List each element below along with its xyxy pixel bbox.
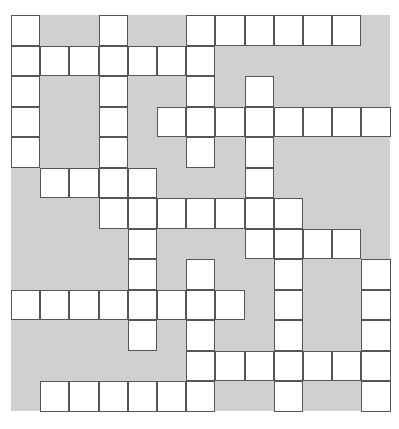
crossword-cell-r9-c12[interactable] bbox=[361, 290, 390, 321]
crossword-cell-r5-c4[interactable] bbox=[128, 168, 157, 199]
crossword-cell-r9-c6[interactable] bbox=[186, 290, 215, 321]
crossword-cell-r8-c4[interactable] bbox=[128, 259, 157, 290]
crossword-cell-r1-c3[interactable] bbox=[99, 46, 128, 77]
crossword-cell-r2-c3[interactable] bbox=[99, 76, 128, 107]
crossword-cell-r9-c1[interactable] bbox=[40, 290, 69, 321]
crossword-cell-r7-c8[interactable] bbox=[245, 229, 274, 260]
crossword-cell-r2-c8[interactable] bbox=[245, 76, 274, 107]
crossword-cell-r6-c6[interactable] bbox=[186, 198, 215, 229]
crossword-cell-r7-c10[interactable] bbox=[303, 229, 332, 260]
crossword-cell-r3-c12[interactable] bbox=[361, 107, 390, 138]
crossword-cell-r0-c0[interactable] bbox=[11, 15, 40, 46]
crossword-cell-r12-c4[interactable] bbox=[128, 381, 157, 412]
crossword-cell-r3-c6[interactable] bbox=[186, 107, 215, 138]
crossword-cell-r12-c12[interactable] bbox=[361, 381, 390, 412]
crossword-cell-r11-c9[interactable] bbox=[274, 351, 303, 382]
crossword-cell-r0-c7[interactable] bbox=[215, 15, 244, 46]
crossword-cell-r6-c5[interactable] bbox=[157, 198, 186, 229]
crossword-cell-r9-c3[interactable] bbox=[99, 290, 128, 321]
crossword-cell-r10-c6[interactable] bbox=[186, 320, 215, 351]
crossword-cell-r3-c3[interactable] bbox=[99, 107, 128, 138]
crossword-cell-r5-c8[interactable] bbox=[245, 168, 274, 199]
crossword-cell-r0-c8[interactable] bbox=[245, 15, 274, 46]
crossword-cell-r9-c2[interactable] bbox=[69, 290, 98, 321]
crossword-cell-r2-c6[interactable] bbox=[186, 76, 215, 107]
crossword-cell-r11-c11[interactable] bbox=[332, 351, 361, 382]
crossword-cell-r8-c12[interactable] bbox=[361, 259, 390, 290]
crossword-cell-r3-c0[interactable] bbox=[11, 107, 40, 138]
crossword-cell-r3-c11[interactable] bbox=[332, 107, 361, 138]
crossword-cell-r8-c9[interactable] bbox=[274, 259, 303, 290]
crossword-cell-r12-c1[interactable] bbox=[40, 381, 69, 412]
crossword-cell-r4-c3[interactable] bbox=[99, 137, 128, 168]
crossword-cell-r2-c0[interactable] bbox=[11, 76, 40, 107]
crossword-cell-r7-c11[interactable] bbox=[332, 229, 361, 260]
crossword-cell-r10-c12[interactable] bbox=[361, 320, 390, 351]
crossword-cell-r8-c6[interactable] bbox=[186, 259, 215, 290]
crossword-cell-r12-c9[interactable] bbox=[274, 381, 303, 412]
crossword-cell-r9-c4[interactable] bbox=[128, 290, 157, 321]
crossword-cell-r11-c6[interactable] bbox=[186, 351, 215, 382]
crossword-cell-r5-c3[interactable] bbox=[99, 168, 128, 199]
crossword-cell-r9-c5[interactable] bbox=[157, 290, 186, 321]
crossword-cell-r6-c4[interactable] bbox=[128, 198, 157, 229]
crossword-cell-r4-c8[interactable] bbox=[245, 137, 274, 168]
crossword-cell-r3-c9[interactable] bbox=[274, 107, 303, 138]
crossword-cell-r0-c6[interactable] bbox=[186, 15, 215, 46]
crossword-cell-r5-c1[interactable] bbox=[40, 168, 69, 199]
crossword-cell-r9-c9[interactable] bbox=[274, 290, 303, 321]
crossword-cell-r1-c0[interactable] bbox=[11, 46, 40, 77]
crossword-cell-r11-c12[interactable] bbox=[361, 351, 390, 382]
crossword-cell-r6-c7[interactable] bbox=[215, 198, 244, 229]
crossword-cell-r4-c6[interactable] bbox=[186, 137, 215, 168]
crossword-cell-r3-c7[interactable] bbox=[215, 107, 244, 138]
crossword-cell-r0-c11[interactable] bbox=[332, 15, 361, 46]
crossword-cell-r10-c9[interactable] bbox=[274, 320, 303, 351]
crossword-cell-r9-c7[interactable] bbox=[215, 290, 244, 321]
crossword-cell-r3-c5[interactable] bbox=[157, 107, 186, 138]
crossword-cell-r11-c8[interactable] bbox=[245, 351, 274, 382]
crossword-cell-r1-c5[interactable] bbox=[157, 46, 186, 77]
crossword-cell-r1-c2[interactable] bbox=[69, 46, 98, 77]
crossword-cell-r3-c8[interactable] bbox=[245, 107, 274, 138]
crossword-cell-r1-c1[interactable] bbox=[40, 46, 69, 77]
crossword-cell-r1-c6[interactable] bbox=[186, 46, 215, 77]
crossword-cell-r7-c4[interactable] bbox=[128, 229, 157, 260]
crossword-cell-r0-c10[interactable] bbox=[303, 15, 332, 46]
crossword-cell-r1-c4[interactable] bbox=[128, 46, 157, 77]
crossword-cell-r12-c3[interactable] bbox=[99, 381, 128, 412]
crossword-cell-r11-c10[interactable] bbox=[303, 351, 332, 382]
crossword-cell-r4-c0[interactable] bbox=[11, 137, 40, 168]
crossword-cell-r12-c6[interactable] bbox=[186, 381, 215, 412]
crossword-cell-r11-c7[interactable] bbox=[215, 351, 244, 382]
crossword-cell-r6-c3[interactable] bbox=[99, 198, 128, 229]
crossword-cell-r10-c4[interactable] bbox=[128, 320, 157, 351]
crossword-grid bbox=[11, 15, 390, 411]
crossword-cell-r9-c0[interactable] bbox=[11, 290, 40, 321]
crossword-cell-r0-c9[interactable] bbox=[274, 15, 303, 46]
crossword-cell-r6-c9[interactable] bbox=[274, 198, 303, 229]
crossword-cell-r5-c2[interactable] bbox=[69, 168, 98, 199]
crossword-cell-r7-c9[interactable] bbox=[274, 229, 303, 260]
crossword-cell-r12-c2[interactable] bbox=[69, 381, 98, 412]
crossword-cell-r12-c5[interactable] bbox=[157, 381, 186, 412]
crossword-cell-r0-c3[interactable] bbox=[99, 15, 128, 46]
crossword-cell-r3-c10[interactable] bbox=[303, 107, 332, 138]
crossword-cell-r6-c8[interactable] bbox=[245, 198, 274, 229]
